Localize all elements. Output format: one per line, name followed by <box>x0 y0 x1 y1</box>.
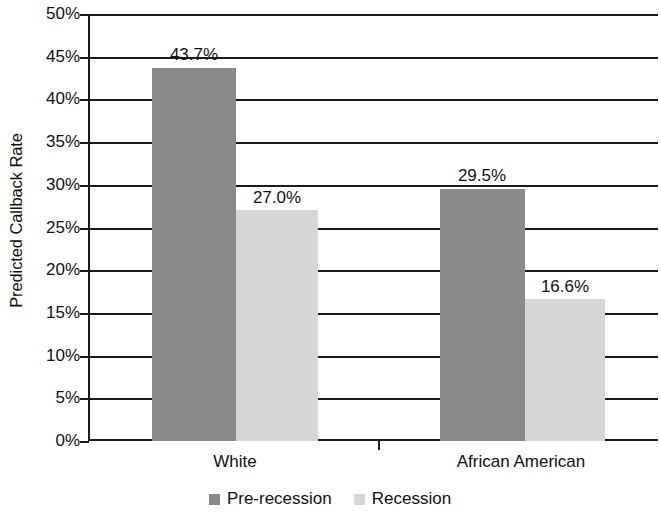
chart-legend: Pre-recession Recession <box>0 489 660 509</box>
bar-african-american-recession[interactable] <box>525 299 605 441</box>
bar-white-recession[interactable] <box>236 210 318 441</box>
y-tick-label: 40% <box>34 89 80 109</box>
y-tick-label: 50% <box>34 4 80 24</box>
y-tick-label: 45% <box>34 47 80 67</box>
legend-item-pre-recession[interactable]: Pre-recession <box>209 489 332 509</box>
bar-african-american-pre-recession[interactable] <box>440 189 525 441</box>
legend-label: Pre-recession <box>227 489 332 509</box>
y-tick-label: 20% <box>34 260 80 280</box>
legend-swatch-icon <box>354 494 365 505</box>
y-tick-label: 25% <box>34 218 80 238</box>
plot-area: 43.7% 27.0% 29.5% 16.6% <box>88 14 658 441</box>
legend-item-recession[interactable]: Recession <box>354 489 451 509</box>
bar-value-label: 27.0% <box>253 188 301 208</box>
x-category-label-african-american: African American <box>457 452 586 472</box>
y-axis-title-text: Predicted Callback Rate <box>7 133 26 308</box>
legend-swatch-icon <box>209 494 220 505</box>
y-axis-title: Predicted Callback Rate <box>0 0 32 441</box>
grid-line <box>88 14 658 16</box>
legend-label: Recession <box>372 489 451 509</box>
x-axis-group-separator-tick <box>378 441 380 450</box>
bar-white-pre-recession[interactable] <box>152 68 236 441</box>
y-tick-label: 35% <box>34 132 80 152</box>
bar-value-label: 29.5% <box>458 166 506 186</box>
y-tick-label: 15% <box>34 303 80 323</box>
y-tick-label: 0% <box>34 431 80 451</box>
y-tick-label: 30% <box>34 175 80 195</box>
y-tick-label: 10% <box>34 346 80 366</box>
y-tick-label: 5% <box>34 388 80 408</box>
bar-value-label: 16.6% <box>541 277 589 297</box>
y-axis-tick-labels: 50% 45% 40% 35% 30% 25% 20% 15% 10% 5% 0… <box>34 14 80 441</box>
bar-chart: Predicted Callback Rate 50% 45% 40% 35% … <box>0 0 660 521</box>
y-tick-mark <box>80 441 89 443</box>
x-category-label-white: White <box>213 452 256 472</box>
bar-value-label: 43.7% <box>170 45 218 65</box>
